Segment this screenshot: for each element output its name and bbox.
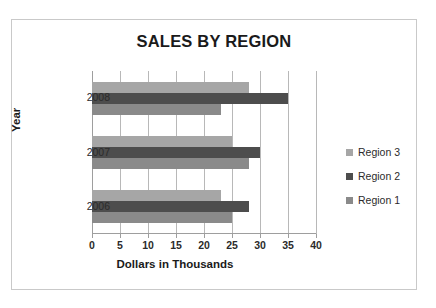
tick-mark: [148, 234, 149, 238]
y-category-label-2006: 2006: [62, 200, 110, 212]
bar-region-2-2006: [92, 201, 249, 212]
x-tick-label: 35: [273, 239, 303, 251]
tick-mark: [232, 234, 233, 238]
legend-swatch-icon: [346, 149, 353, 156]
gridline: [316, 71, 317, 234]
tick-mark: [260, 234, 261, 238]
y-category-label-2008: 2008: [62, 91, 110, 103]
tick-mark: [204, 234, 205, 238]
legend-item-region-1[interactable]: Region 1: [346, 188, 418, 212]
legend-label: Region 3: [358, 146, 400, 158]
y-axis-title: Year: [10, 108, 22, 132]
legend-swatch-icon: [346, 173, 353, 180]
gridline: [288, 71, 289, 234]
x-tick-label: 0: [77, 239, 107, 251]
bar-region-2-2008: [92, 93, 288, 104]
plot-area: [92, 71, 316, 234]
x-tick-label: 20: [189, 239, 219, 251]
tick-mark: [92, 234, 93, 238]
x-tick-label: 30: [245, 239, 275, 251]
x-tick-label: 5: [105, 239, 135, 251]
bar-region-3-2008: [92, 82, 249, 93]
bar-region-1-2008: [92, 104, 221, 115]
tick-mark: [176, 234, 177, 238]
legend-label: Region 2: [358, 170, 400, 182]
chart-legend: Region 3Region 2Region 1: [346, 140, 418, 212]
tick-mark: [120, 234, 121, 238]
legend-label: Region 1: [358, 194, 400, 206]
legend-swatch-icon: [346, 197, 353, 204]
tick-mark: [288, 234, 289, 238]
bar-region-1-2007: [92, 158, 249, 169]
x-tick-label: 15: [161, 239, 191, 251]
bar-region-1-2006: [92, 212, 232, 223]
x-tick-label: 40: [301, 239, 331, 251]
chart-container: SALES BY REGION Year Dollars in Thousand…: [11, 19, 417, 290]
bar-region-3-2007: [92, 136, 232, 147]
bar-region-2-2007: [92, 147, 260, 158]
tick-mark: [316, 234, 317, 238]
chart-title: SALES BY REGION: [12, 32, 416, 51]
legend-item-region-2[interactable]: Region 2: [346, 164, 418, 188]
legend-item-region-3[interactable]: Region 3: [346, 140, 418, 164]
bar-region-3-2006: [92, 190, 221, 201]
x-tick-label: 10: [133, 239, 163, 251]
y-category-label-2007: 2007: [62, 146, 110, 158]
x-axis-title: Dollars in Thousands: [12, 258, 338, 270]
x-tick-label: 25: [217, 239, 247, 251]
